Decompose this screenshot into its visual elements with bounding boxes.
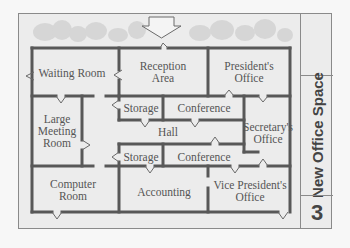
plan-title: New Office Space	[309, 72, 326, 198]
room-reception-area: ReceptionArea	[140, 60, 187, 84]
room-large-meeting-room: LargeMeetingRoom	[38, 113, 76, 149]
room-vice-presidents-office: Vice President'sOffice	[213, 179, 286, 203]
title-block: New Office Space 3	[300, 13, 333, 229]
title-block-blank-cell	[301, 13, 333, 76]
room-presidents-office: President'sOffice	[224, 60, 273, 84]
room-hall: Hall	[158, 126, 178, 138]
room-conference-lower: Conference	[178, 151, 231, 163]
room-accounting: Accounting	[137, 186, 191, 198]
room-waiting-room: Waiting Room	[38, 67, 105, 79]
room-secretarys-office: Secretary'sOffice	[243, 121, 293, 145]
room-conference-upper: Conference	[178, 102, 231, 114]
room-computer-room: ComputerRoom	[50, 178, 96, 202]
room-storage-lower: Storage	[123, 151, 158, 163]
room-storage-upper: Storage	[123, 102, 158, 114]
title-block-title-cell: New Office Space	[301, 75, 333, 195]
plan-number: 3	[301, 195, 333, 229]
entrance-arrow-icon	[142, 17, 181, 38]
